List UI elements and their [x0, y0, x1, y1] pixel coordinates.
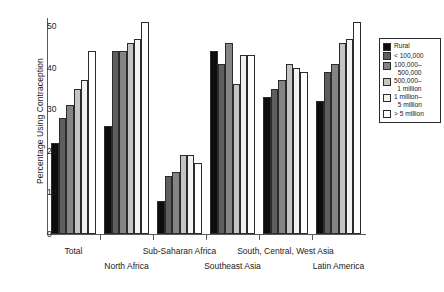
bar — [81, 80, 88, 234]
bar — [240, 55, 247, 234]
bar — [263, 97, 270, 234]
plot-area — [47, 18, 365, 234]
chart-legend: Rural< 100,000100,000–500,000500,000–1 m… — [379, 38, 441, 123]
legend-label: < 100,000 — [394, 52, 424, 60]
y-axis-tick-label: 30 — [47, 105, 59, 114]
legend-label: 1 million–5 million — [394, 93, 422, 108]
x-axis-label: Latin America — [269, 262, 409, 271]
bar — [180, 155, 187, 234]
bar — [353, 22, 360, 234]
legend-swatch — [383, 52, 391, 60]
bar-group — [153, 18, 206, 234]
bar — [218, 64, 225, 234]
bar — [172, 172, 179, 234]
bar — [300, 72, 307, 234]
bar — [346, 39, 353, 234]
legend-label: Rural — [394, 42, 410, 50]
x-axis-tick-mark — [312, 235, 313, 240]
bar-group — [100, 18, 153, 234]
bar-group — [47, 18, 100, 234]
legend-item: < 100,000 — [383, 52, 438, 61]
bar — [225, 43, 232, 234]
bar-group — [312, 18, 365, 234]
bar — [339, 43, 346, 234]
legend-label: 500,000–1 million — [394, 77, 422, 92]
bar-groups — [47, 18, 365, 234]
y-axis-tick-label: 20 — [47, 147, 59, 156]
bar — [293, 68, 300, 234]
x-axis-tick-mark — [100, 235, 101, 240]
legend-swatch — [383, 62, 391, 70]
legend-swatch — [383, 78, 391, 86]
bar — [88, 51, 95, 234]
bar — [247, 55, 254, 234]
bar — [286, 64, 293, 234]
legend-label: > 5 million — [394, 110, 424, 118]
bar — [104, 126, 111, 234]
x-axis-tick-mark — [206, 235, 207, 240]
bar — [324, 72, 331, 234]
bar — [127, 43, 134, 234]
bar-group — [206, 18, 259, 234]
legend-item: > 5 million — [383, 110, 438, 119]
bar — [187, 155, 194, 234]
bar — [331, 64, 338, 234]
legend-item: 100,000–500,000 — [383, 61, 438, 76]
legend-item: 1 million–5 million — [383, 93, 438, 108]
bar — [271, 89, 278, 234]
bar-group — [259, 18, 312, 234]
bar — [165, 176, 172, 234]
y-axis-tick-label: 50 — [47, 22, 59, 31]
x-axis-tick-mark — [153, 235, 154, 240]
bar — [210, 51, 217, 234]
bar — [157, 201, 164, 234]
legend-swatch — [383, 43, 391, 51]
bar — [316, 101, 323, 234]
bar — [134, 39, 141, 234]
bar — [233, 84, 240, 234]
y-axis-tick-label: 0 — [47, 230, 55, 239]
bar — [119, 51, 126, 234]
bar — [59, 118, 66, 234]
bar — [194, 163, 201, 234]
bar — [66, 105, 73, 234]
legend-label: 100,000–500,000 — [394, 61, 422, 76]
bar — [278, 80, 285, 234]
legend-item: 500,000–1 million — [383, 77, 438, 92]
legend-swatch — [383, 110, 391, 118]
legend-item: Rural — [383, 42, 438, 51]
y-axis-title: Percentage Using Contraception — [35, 21, 45, 221]
bar — [112, 51, 119, 234]
x-axis-tick-mark — [259, 235, 260, 240]
bar — [74, 89, 81, 234]
bar-chart: Percentage Using Contraception 010203040… — [0, 0, 444, 292]
legend-swatch — [383, 94, 391, 102]
y-axis-tick-label: 10 — [47, 188, 59, 197]
y-axis-tick-label: 40 — [47, 64, 59, 73]
bar — [141, 22, 148, 234]
x-axis-label: South, Central, West Asia — [216, 247, 356, 256]
